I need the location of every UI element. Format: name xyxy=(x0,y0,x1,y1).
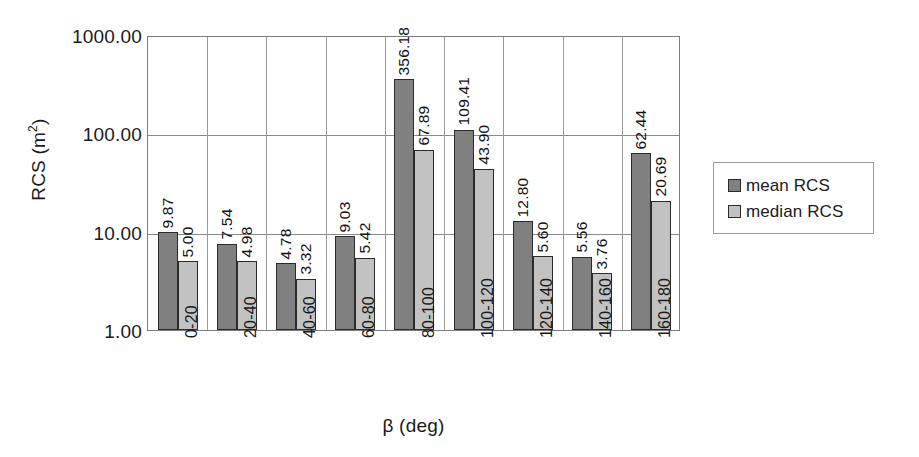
x-tick-label: 80-100 xyxy=(421,287,437,338)
bar-value-label: 9.87 xyxy=(159,197,175,228)
x-tick-label: 40-60 xyxy=(302,296,318,338)
legend-label: median RCS xyxy=(746,203,843,220)
bar-value-label: 356.18 xyxy=(396,26,412,75)
legend-swatch-icon xyxy=(728,205,741,218)
legend-item[interactable]: mean RCS xyxy=(728,172,873,198)
x-tick-label: 140-160 xyxy=(598,278,614,338)
bar-value-label: 9.03 xyxy=(337,201,353,232)
bar-value-label: 67.89 xyxy=(416,106,432,146)
bar-mean-rcs[interactable] xyxy=(158,232,178,330)
bar-value-label: 7.54 xyxy=(218,209,234,240)
y-tick-label: 100.00 xyxy=(36,125,142,144)
x-tick-label: 160-180 xyxy=(657,278,673,338)
bar-value-label: 12.80 xyxy=(514,177,530,217)
y-tick-label: 10.00 xyxy=(36,224,142,243)
bar-value-label: 109.41 xyxy=(455,77,471,126)
bar-value-label: 5.00 xyxy=(179,226,195,257)
bar-value-label: 4.98 xyxy=(238,226,254,257)
bar-mean-rcs[interactable] xyxy=(217,244,237,330)
bar-value-label: 5.42 xyxy=(357,223,373,254)
y-axis-tick-labels: 1000.00100.0010.001.00 xyxy=(30,0,142,457)
bar-group: 9.035.42 xyxy=(326,37,385,330)
bar-group: 9.875.00 xyxy=(148,37,207,330)
x-tick-label: 100-120 xyxy=(480,278,496,338)
bar-value-label: 62.44 xyxy=(633,110,649,150)
bar-mean-rcs[interactable] xyxy=(276,263,296,330)
bar-value-label: 3.32 xyxy=(298,244,314,275)
x-tick-label: 120-140 xyxy=(539,278,555,338)
x-tick-label: 60-80 xyxy=(361,296,377,338)
chart-figure: RCS (m2) 1000.00100.0010.001.00 9.875.00… xyxy=(0,0,919,457)
x-axis-title: β (deg) xyxy=(147,415,680,437)
x-tick-label: 20-40 xyxy=(243,296,259,338)
y-tick-label: 1.00 xyxy=(36,322,142,341)
y-tick-label: 1000.00 xyxy=(36,27,142,46)
bar-mean-rcs[interactable] xyxy=(335,236,355,330)
x-axis-tick-labels: 0-2020-4040-6060-8080-100100-120120-1401… xyxy=(147,332,680,412)
bar-mean-rcs[interactable] xyxy=(394,79,414,330)
bar-group: 4.783.32 xyxy=(266,37,325,330)
x-tick-label: 0-20 xyxy=(184,305,200,338)
bar-value-label: 3.76 xyxy=(594,238,610,269)
legend-item[interactable]: median RCS xyxy=(728,198,873,224)
legend-label: mean RCS xyxy=(746,177,830,194)
bar-value-label: 43.90 xyxy=(475,125,491,165)
bar-value-label: 4.78 xyxy=(278,228,294,259)
legend-swatch-icon xyxy=(728,179,741,192)
bar-mean-rcs[interactable] xyxy=(631,153,651,330)
bar-mean-rcs[interactable] xyxy=(454,130,474,331)
bar-group: 7.544.98 xyxy=(207,37,266,330)
chart-legend: mean RCSmedian RCS xyxy=(713,162,874,234)
bar-value-label: 5.56 xyxy=(574,222,590,253)
bar-value-label: 20.69 xyxy=(653,157,669,197)
bar-mean-rcs[interactable] xyxy=(513,221,533,330)
bar-mean-rcs[interactable] xyxy=(572,257,592,330)
bar-value-label: 5.60 xyxy=(534,221,550,252)
